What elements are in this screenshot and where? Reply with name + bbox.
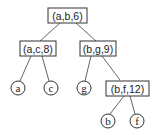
leaf-g: g <box>77 81 91 95</box>
leaf-a: a <box>11 81 25 95</box>
node-root-label: (a,b,6) <box>52 10 82 22</box>
leaf-a-label: a <box>16 82 21 94</box>
edge-right-bf12 <box>102 56 120 80</box>
node-root: (a,b,6) <box>48 8 87 23</box>
node-left-label: (a,c,8) <box>23 43 53 55</box>
leaf-f: f <box>130 114 144 128</box>
leaf-f-label: f <box>135 115 139 127</box>
leaf-b: b <box>101 114 115 128</box>
node-right: (b,g,9) <box>80 41 116 56</box>
edge-left-c <box>42 56 49 81</box>
leaf-c: c <box>44 81 58 95</box>
leaf-b-label: b <box>105 115 111 127</box>
edge-left-a <box>20 56 31 81</box>
node-right-label: (b,g,9) <box>83 43 113 55</box>
node-left: (a,c,8) <box>20 41 56 56</box>
edge-bf12-f <box>130 96 135 114</box>
tree-diagram: (a,b,6) (a,c,8) (b,g,9) (b,f,12) a c g b… <box>0 0 161 135</box>
edge-bf12-b <box>110 96 124 114</box>
edge-root-left <box>40 23 60 41</box>
node-right-right-label: (b,f,12) <box>111 83 144 95</box>
node-right-right: (b,f,12) <box>106 81 149 96</box>
leaf-c-label: c <box>49 82 54 94</box>
edge-right-g <box>85 56 91 81</box>
edge-root-right <box>76 23 96 41</box>
leaf-g-label: g <box>81 82 87 94</box>
